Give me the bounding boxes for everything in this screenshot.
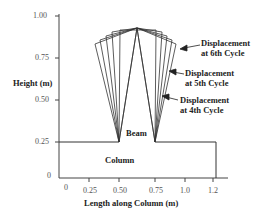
- y-tick-0: 0: [47, 171, 51, 180]
- x-tick-0.50: 0.50: [113, 186, 127, 195]
- x-axis-label: Length along Column (m): [84, 198, 178, 208]
- x-tick-0: 0: [64, 183, 68, 192]
- annotation-5th-cycle: Displacement at 5th Cycle: [185, 68, 234, 88]
- x-tick-1.2: 1.2: [208, 186, 218, 195]
- x-tick-0.75: 0.75: [149, 186, 163, 195]
- y-axis-label: Height (m): [13, 78, 52, 88]
- y-tick-0.50: 0.50: [35, 95, 49, 104]
- column-label: Column: [105, 155, 134, 165]
- x-tick-0.25: 0.25: [83, 186, 97, 195]
- annotation-6th-cycle: Displacement at 6th Cycle: [201, 38, 250, 58]
- y-tick-0.75: 0.75: [35, 53, 49, 62]
- y-tick-1.00: 1.00: [33, 11, 47, 20]
- x-tick-1.0: 1.0: [180, 186, 190, 195]
- y-tick-0.25: 0.25: [35, 137, 49, 146]
- beam-label: Beam: [126, 128, 147, 138]
- annotation-4th-cycle: Displacement at 4th Cycle: [180, 95, 229, 115]
